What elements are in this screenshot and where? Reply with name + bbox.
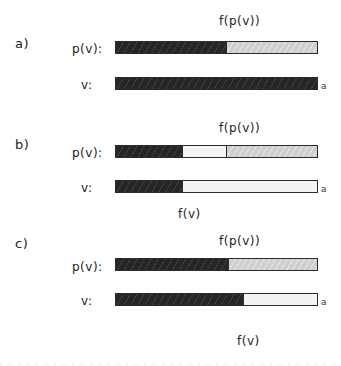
end-marker-a: a — [321, 182, 327, 196]
bar-p-v — [115, 41, 318, 54]
row-label-p-v: p(v): — [72, 42, 103, 56]
segment-dark — [116, 78, 317, 89]
row-label-v: v: — [81, 294, 93, 308]
bar-v — [115, 77, 318, 90]
scan-artifact-line — [0, 363, 341, 364]
bar-v — [115, 293, 318, 306]
row-label-p-v: p(v): — [72, 260, 103, 274]
segment-gray — [226, 146, 317, 157]
annotation-f-v: f(v) — [178, 207, 201, 221]
bar-v — [115, 180, 318, 193]
segment-gray — [228, 259, 317, 270]
end-marker-a: a — [321, 295, 327, 309]
segment-white — [182, 181, 317, 192]
segment-dark — [116, 42, 226, 53]
row-label-v: v: — [81, 78, 93, 92]
row-label-p-v: p(v): — [72, 146, 103, 160]
annotation-f-v: f(v) — [237, 334, 260, 348]
segment-dark — [116, 294, 243, 305]
annotation-f-p-v: f(p(v)) — [219, 14, 260, 28]
segment-dark — [116, 259, 228, 270]
panel-label: c) — [15, 237, 28, 251]
row-label-v: v: — [81, 181, 93, 195]
panel-label: b) — [15, 138, 29, 152]
bar-p-v — [115, 145, 318, 158]
annotation-f-p-v: f(p(v)) — [219, 121, 260, 135]
end-marker-a: a — [321, 79, 327, 93]
segment-dark — [116, 146, 182, 157]
segment-white — [243, 294, 317, 305]
segment-gray — [226, 42, 317, 53]
segment-dark — [116, 181, 182, 192]
panel-label: a) — [15, 37, 29, 51]
annotation-f-p-v: f(p(v)) — [219, 234, 260, 248]
segment-white — [182, 146, 226, 157]
bar-p-v — [115, 258, 318, 271]
